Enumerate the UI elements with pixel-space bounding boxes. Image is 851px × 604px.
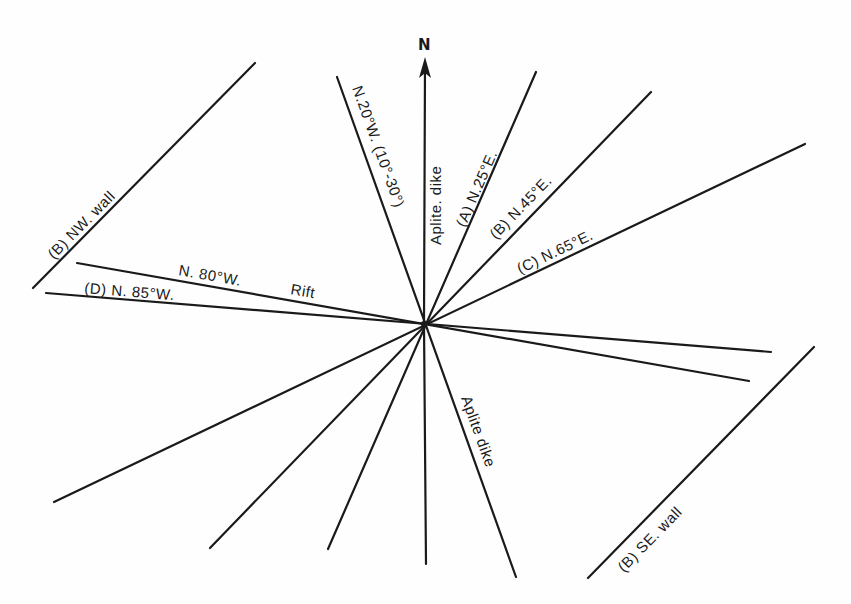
- nw-wall-line: [33, 63, 255, 288]
- rift-label: Rift: [289, 280, 316, 301]
- n85w-label: (D) N. 85°W.: [84, 279, 175, 303]
- north-south-lower-line: [424, 324, 426, 564]
- n80w-label: N. 80°W.: [177, 261, 242, 289]
- n25e-line: [328, 72, 536, 549]
- joint-rose-diagram: N N.20°W. (10°-30°) Aplite. dike (A) N.2…: [0, 0, 851, 604]
- north-label: N: [418, 36, 431, 54]
- se-wall-line: [588, 347, 814, 578]
- n45e-line: [210, 92, 651, 548]
- north-arrow-line: [424, 64, 425, 324]
- n25e-label: (A) N.25°E.: [452, 148, 500, 230]
- n45e-label: (B) N.45°E.: [486, 172, 555, 242]
- nw-wall-label: (B) NW. wall: [44, 187, 118, 262]
- aplite-dike-north-label: Aplite. dike: [427, 166, 444, 245]
- n65e-label: (C) N.65°E.: [514, 226, 596, 277]
- center-point: [421, 321, 427, 327]
- diagram-svg: N N.20°W. (10°-30°) Aplite. dike (A) N.2…: [0, 0, 851, 604]
